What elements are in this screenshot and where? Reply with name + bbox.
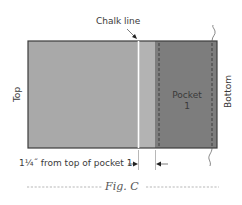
pocket-label-line2: 1 (168, 101, 206, 112)
fabric-panel (28, 41, 155, 148)
figure-caption: Fig. C (105, 181, 139, 192)
top-label: Top (13, 83, 22, 107)
squiggle-bottom-icon (209, 148, 212, 166)
measure-arrowhead-left-icon (156, 162, 161, 167)
chalk-band (139, 41, 155, 148)
pocket-label: Pocket 1 (168, 90, 206, 112)
bottom-label: Bottom (224, 72, 233, 112)
squiggle-top-icon (212, 25, 215, 41)
pocket-label-line1: Pocket (168, 90, 206, 101)
measurement-label: 1¼˝ from top of pocket 1 (19, 159, 132, 168)
measure-arrowhead-right-icon (133, 162, 138, 167)
chalk-line-label: Chalk line (96, 17, 140, 26)
